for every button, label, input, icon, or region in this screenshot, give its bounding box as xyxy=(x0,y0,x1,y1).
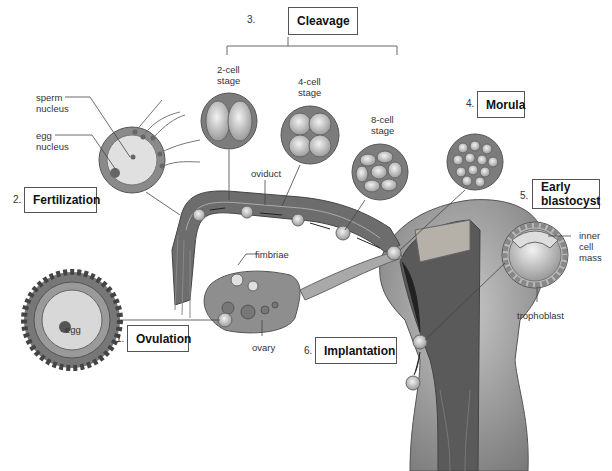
fimbriae-label: fimbriae xyxy=(255,249,289,260)
stage-4-label: Morula xyxy=(486,98,525,112)
four-cell-embryo xyxy=(281,106,339,164)
two-cell-stage-label: 2-cell stage xyxy=(217,64,240,86)
stage-5-number: 5. xyxy=(520,190,528,201)
oviduct-label: oviduct xyxy=(251,168,281,179)
inner-cell-mass-label: inner cell mass xyxy=(579,230,602,263)
ovary-label: ovary xyxy=(252,342,275,353)
trophoblast-label: trophoblast xyxy=(517,310,564,321)
stage-6-label: Implantation xyxy=(324,344,395,358)
morula xyxy=(447,134,503,190)
stage-3-cleavage-box: Cleavage xyxy=(288,7,358,35)
eight-cell-embryo xyxy=(352,144,408,200)
fertilization-egg xyxy=(99,100,200,193)
egg-illustration xyxy=(24,272,120,368)
sperm-nucleus-label: sperm nucleus xyxy=(36,92,69,114)
eight-cell-stage-label: 8-cell stage xyxy=(371,114,394,136)
cleavage-bracket xyxy=(227,37,397,55)
stage-6-implantation-box: Implantation xyxy=(315,337,397,364)
egg-nucleus-label: egg nucleus xyxy=(36,130,69,152)
egg-label: egg xyxy=(65,324,81,335)
stage-5-label-line2: blastocyst xyxy=(541,194,600,208)
stage-3-label: Cleavage xyxy=(297,14,350,28)
stage-5-label-line1: Early xyxy=(541,180,570,194)
stage-2-label: Fertilization xyxy=(33,193,100,207)
stage-5-blastocyst-box: Early blastocyst xyxy=(532,179,600,209)
stage-2-number: 2. xyxy=(13,194,21,205)
stage-1-label: Ovulation xyxy=(136,332,191,346)
four-cell-stage-label: 4-cell stage xyxy=(298,76,321,98)
stage-1-ovulation-box: Ovulation xyxy=(127,325,189,352)
stage-4-morula-box: Morula xyxy=(477,91,525,118)
stage-6-number: 6. xyxy=(304,345,312,356)
two-cell-embryo xyxy=(201,93,257,149)
blastocyst xyxy=(502,222,568,288)
stage-1-number: 1. xyxy=(116,333,124,344)
stage-4-number: 4. xyxy=(466,98,474,109)
stage-2-fertilization-box: Fertilization xyxy=(24,187,97,213)
reproduction-illustration xyxy=(0,0,612,471)
stage-3-number: 3. xyxy=(247,14,255,25)
